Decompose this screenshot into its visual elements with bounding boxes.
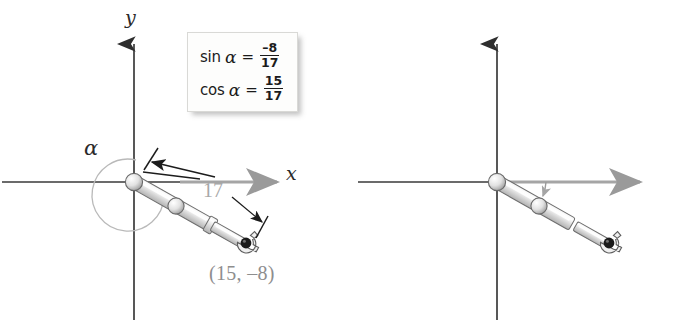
sin-label: sin — [200, 48, 221, 66]
joint-mid-right — [531, 198, 547, 214]
robot-arm-right — [488, 173, 621, 253]
x-axis-label-left: x — [286, 162, 297, 184]
alpha-symbol-sin: α — [225, 47, 236, 67]
cos-label: cos — [200, 81, 225, 99]
panel-alpha: sin α = –8 17 cos α = 15 17 y — [0, 0, 340, 320]
alpha-symbol-cos: α — [229, 80, 240, 100]
numerator-cos-alpha: 15 — [264, 75, 283, 88]
angle-arc-beta — [543, 182, 546, 196]
joint-mid-left — [168, 198, 184, 214]
formula-row-cos-alpha: cos α = 15 17 — [200, 73, 285, 106]
y-axis-label-left: y — [125, 6, 136, 28]
denominator-sin-alpha: 17 — [260, 57, 279, 70]
formula-box-alpha: sin α = –8 17 cos α = 15 17 — [187, 32, 298, 112]
numerator-sin-alpha: –8 — [261, 42, 278, 55]
denominator-cos-alpha: 17 — [264, 90, 283, 103]
joint-base-right — [488, 173, 505, 190]
fraction-cos-alpha: 15 17 — [264, 75, 283, 103]
equals-sign-cos: = — [245, 81, 258, 99]
formula-row-sin-alpha: sin α = –8 17 — [200, 40, 285, 73]
fraction-sin-alpha: –8 17 — [260, 42, 279, 70]
panel-beta-graphics — [340, 0, 673, 320]
arm-length-label: 17 — [203, 179, 223, 202]
robot-arm-left — [125, 173, 258, 253]
joint-base-left — [125, 173, 142, 190]
panel-beta: sin β = –8 17 cos β = 15 17 y — [340, 0, 673, 320]
equals-sign-sin: = — [241, 48, 254, 66]
point-coordinate-label-left: (15, –8) — [209, 262, 275, 285]
angle-pointer-left — [144, 148, 215, 177]
figure-canvas: sin α = –8 17 cos α = 15 17 y — [0, 0, 673, 320]
alpha-angle-label: α — [84, 136, 98, 160]
